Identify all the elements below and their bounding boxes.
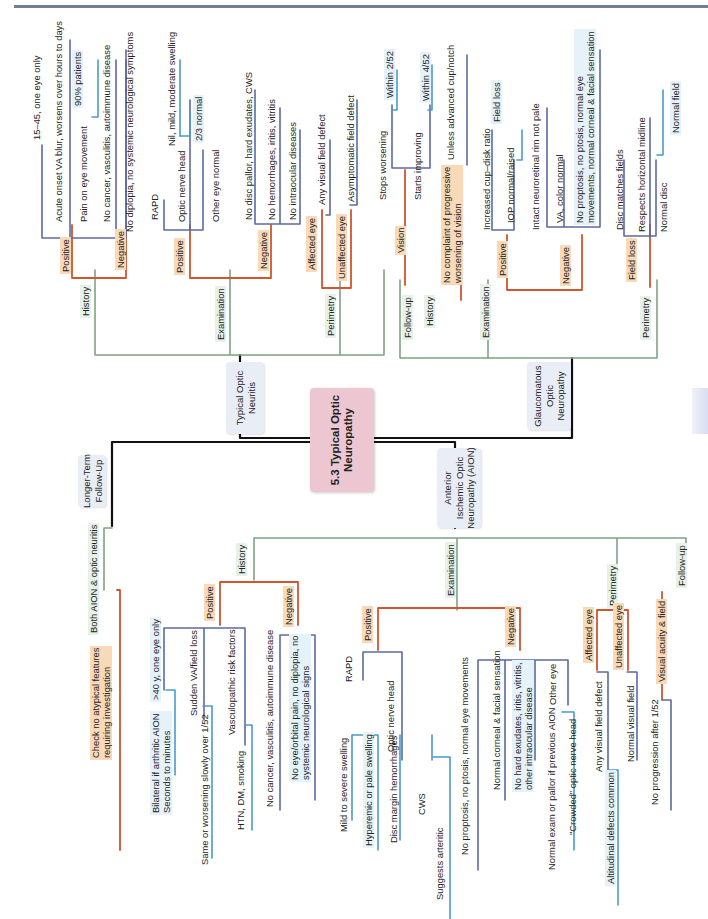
- topic-label: Longer-Term Follow-Up: [81, 454, 104, 508]
- gon-intact-rim: Intact neuroretinal rim not pale: [530, 103, 541, 230]
- on-no-diplopia: No diplopia, no systemic neurological sy…: [124, 32, 135, 232]
- aion-other-eye: Other eye: [547, 664, 558, 705]
- on-age: 15–45, one eye only: [31, 56, 42, 140]
- aion-normal-vf: Normal visual field: [625, 685, 636, 762]
- aion-unaffected-eye: Unaffected eye: [613, 603, 624, 670]
- on-no-intraocular: No intraocular diseases: [287, 122, 298, 220]
- on-history-negative: Negative: [115, 229, 126, 270]
- aion-disc-margin: Disc margin hemorrhages: [388, 736, 399, 843]
- aion-history: History: [236, 543, 247, 576]
- on-no-cancer: No cancer, vasculitis, autoimmune diseas…: [101, 45, 112, 222]
- on-pain-90pct: 90% patients: [72, 50, 83, 108]
- gon-normal-disc: Normal disc: [658, 183, 669, 233]
- aion-any-vf-defect: Any visual field defect: [593, 681, 604, 772]
- on-stops-worsening: Stops worsening: [377, 131, 388, 200]
- on-starts-improving: Starts improving: [412, 132, 423, 200]
- gon-field-loss: Field loss: [626, 238, 637, 282]
- aion-affected-eye: Affected eye: [583, 607, 594, 663]
- aion-cws: CWS: [416, 793, 427, 815]
- gon-unless-advanced: Unless advanced cup/notch: [445, 45, 456, 160]
- gon-cup-disk-ratio: Increased cup–disk ratio: [481, 128, 492, 230]
- on-optic-nerve-head: Optic nerve head: [176, 151, 187, 222]
- aion-exam-positive: Positive: [362, 606, 373, 643]
- gon-va-color: VA, color normal: [554, 154, 565, 223]
- aion-perimetry: Perimetry: [607, 564, 618, 608]
- on-rapd: RAPD: [149, 194, 160, 220]
- topic-aion[interactable]: Anterior Ischemic Optic Neuropathy (AION…: [437, 448, 481, 528]
- on-onh-swelling: Nil, mild, moderate swelling: [166, 32, 177, 146]
- topic-label: Anterior Ischemic Optic Neuropathy (AION…: [442, 447, 477, 528]
- aion-over-40: >40 y, one eye only: [150, 617, 161, 702]
- on-vision: Vision: [395, 226, 406, 255]
- gon-negative: Negative: [560, 245, 571, 286]
- on-follow-up: Follow-up: [402, 295, 413, 340]
- on-affected-eye: Affected eye: [306, 216, 317, 272]
- center-title: 5.3 Typical Optic Neuropathy: [329, 395, 355, 486]
- aion-no-hard-exudates: No hard exudates, iritis, vitritis, othe…: [512, 660, 534, 792]
- aion-mild-severe: Mild to severe swelling: [338, 738, 349, 832]
- aion-hyperemic: Hyperemic or pale swelling: [363, 732, 374, 848]
- aion-history-positive: Positive: [204, 584, 215, 621]
- gon-examination: Examination: [480, 284, 491, 340]
- aion-htn-dm: HTN, DM, smoking: [235, 751, 246, 830]
- page-edge-tab: [692, 388, 708, 434]
- on-within-4-52: Within 4/52: [420, 52, 431, 103]
- aion-normal-exam: Normal exam or pallor if previous AION: [546, 707, 557, 870]
- aion-exam-negative: Negative: [505, 606, 516, 647]
- on-within-2-52: Within 2/52: [384, 49, 395, 100]
- gon-horizontal-midline: Respects horizontal midline: [636, 117, 647, 232]
- gon-history: History: [424, 295, 435, 328]
- topic-label: Typical Optic Neuritis: [234, 371, 257, 425]
- on-history-positive: Positive: [60, 237, 71, 274]
- on-no-hemorrhages: No hemorrhages, iritis, vitritis: [266, 99, 277, 220]
- aion-no-proptosis: No proptosis, no ptosis, normal eye move…: [459, 657, 470, 855]
- gon-perimetry: Perimetry: [640, 296, 651, 340]
- on-exam-positive: Positive: [174, 238, 185, 275]
- aion-crowded-onh: "Crowded" optic nerve head: [567, 719, 578, 835]
- gon-no-proptosis: No proptosis, no ptosis, normal eye move…: [574, 29, 596, 225]
- aion-no-eye-pain: No eye/orbital pain, no diplopia, no sys…: [289, 634, 311, 782]
- aion-va-field: Visual acuity & field: [656, 599, 667, 684]
- aion-follow-up: Follow-up: [676, 543, 687, 588]
- aion-no-cancer: No cancer, vasculitis, autoimmune diseas…: [264, 630, 275, 807]
- gon-field-loss-detail: Field loss: [491, 80, 502, 124]
- gon-no-complaint: No complaint of progressive worsening of…: [441, 165, 463, 285]
- aion-normal-corneal: Normal corneal & facial sensation: [491, 650, 502, 790]
- on-asymptomatic-defect: Asymptomatic field defect: [345, 95, 356, 202]
- on-history: History: [80, 285, 91, 318]
- on-any-vf-defect: Any visual field defect: [316, 114, 327, 205]
- center-node[interactable]: 5.3 Typical Optic Neuropathy: [310, 388, 374, 492]
- lt-check-atypical: Check no atypical features requiring inv…: [90, 646, 112, 760]
- topic-typical-optic-neuritis[interactable]: Typical Optic Neuritis: [226, 362, 264, 434]
- gon-normal-field: Normal field: [670, 81, 681, 135]
- on-no-disc-pallor: No disc pallor, hard exudates, CWS: [243, 72, 254, 220]
- on-onh-2-3-normal: 2/3 normal: [193, 95, 204, 143]
- on-unaffected-eye: Unaffected eye: [336, 214, 347, 281]
- topic-label: Glaucomatous Optic Neuropathy: [532, 365, 567, 426]
- aion-altitudinal: Altitudinal defects common: [605, 770, 616, 886]
- lt-both: Both AION & optic neuritis: [88, 523, 99, 635]
- aion-vasculopathic: Vasculopathic risk factors: [226, 629, 237, 735]
- aion-history-negative: Negative: [283, 586, 294, 627]
- aion-no-progression: No progression after 1/52: [649, 699, 660, 805]
- on-examination: Examination: [215, 286, 226, 342]
- aion-same-worsening: Same or worsening slowly over 1/52: [199, 714, 210, 865]
- gon-iop: IOP normal/raised: [505, 148, 516, 223]
- on-other-eye-normal: Other eye normal: [210, 150, 221, 222]
- on-exam-negative: Negative: [258, 230, 269, 271]
- on-acute-onset: Acute onset VA blur, worsens over hours …: [53, 21, 64, 222]
- aion-suggests-arteritic: Suggests arteritic: [434, 828, 445, 900]
- on-perimetry: Perimetry: [325, 294, 336, 338]
- aion-bilateral: Bilateral if arthritic AION Seconds to m…: [150, 711, 172, 815]
- gon-positive: Positive: [497, 241, 508, 278]
- topic-longer-term-follow-up[interactable]: Longer-Term Follow-Up: [78, 455, 106, 507]
- aion-sudden-va: Sudden VA/field loss: [188, 630, 199, 716]
- gon-disc-matches: Disc matches fields: [614, 149, 625, 230]
- topic-glaucomatous-optic-neuropathy[interactable]: Glaucomatous Optic Neuropathy: [527, 362, 571, 430]
- aion-rapd: RAPD: [343, 656, 354, 682]
- on-pain-eye-movement: Pain on eye movement: [78, 126, 89, 222]
- aion-examination: Examination: [445, 542, 456, 598]
